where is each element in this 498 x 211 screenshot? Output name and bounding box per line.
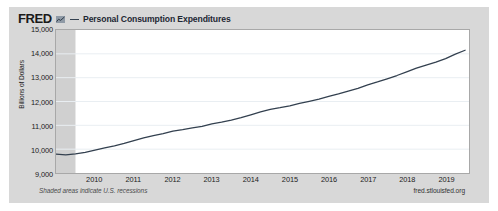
chart-plot-svg [56, 30, 469, 173]
x-tick-label: 2019 [438, 175, 454, 184]
y-axis-title: Billions of Dollars [18, 45, 25, 125]
y-tick-label: 15,000 [9, 25, 53, 34]
y-axis-ticks: 15,00014,00013,00012,00011,00010,0009,00… [9, 29, 53, 174]
x-tick-label: 2013 [204, 175, 220, 184]
chart-legend: Personal Consumption Expenditures [70, 13, 231, 25]
x-tick-label: 2012 [164, 175, 180, 184]
x-tick-label: 2010 [86, 175, 102, 184]
plot-area [55, 29, 470, 174]
legend-series-label: Personal Consumption Expenditures [83, 14, 231, 24]
mini-chart-icon [56, 16, 65, 23]
x-tick-label: 2016 [321, 175, 337, 184]
chart-header: FRED Personal Consumption Expenditures [9, 7, 489, 29]
x-tick-label: 2017 [360, 175, 376, 184]
y-tick-label: 10,000 [9, 145, 53, 154]
x-tick-label: 2015 [282, 175, 298, 184]
x-axis-ticks: 2010201120122013201420152016201720182019 [55, 175, 470, 187]
y-tick-label: 9,000 [9, 170, 53, 179]
x-tick-label: 2014 [243, 175, 259, 184]
x-tick-label: 2011 [126, 175, 142, 184]
x-tick-label: 2018 [399, 175, 415, 184]
series-line-group [56, 50, 465, 155]
recession-note: Shaded areas indicate U.S. recessions [39, 187, 147, 194]
gridline-group [56, 54, 469, 149]
y-tick-label: 13,000 [9, 73, 53, 82]
fred-chart-card: FRED Personal Consumption Expenditures 1… [9, 7, 489, 203]
source-link[interactable]: fred.stlouisfed.org [414, 187, 465, 194]
y-tick-label: 12,000 [9, 97, 53, 106]
legend-line-icon [70, 19, 79, 20]
series-line [56, 50, 465, 155]
y-tick-label: 14,000 [9, 49, 53, 58]
y-tick-label: 11,000 [9, 121, 53, 130]
